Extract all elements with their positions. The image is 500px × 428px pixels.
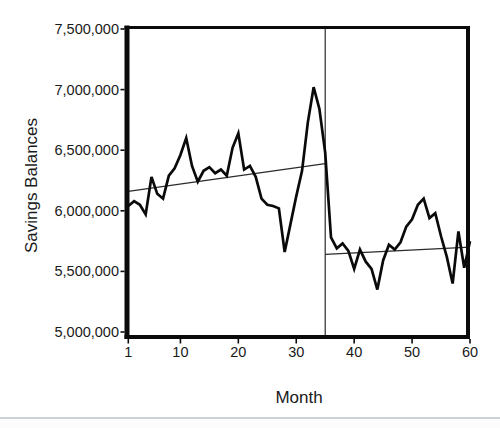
x-tick-label: 40 — [346, 344, 362, 360]
y-tick-label: 5,500,000 — [54, 263, 119, 279]
x-tick-label: 60 — [462, 344, 478, 360]
x-tick-label: 50 — [404, 344, 420, 360]
y-tick-label: 7,000,000 — [54, 82, 119, 98]
below-divider-strip — [0, 419, 500, 428]
x-axis-title: Month — [128, 388, 470, 408]
x-tick-label: 30 — [288, 344, 304, 360]
page: Savings Balances 5,000,0005,500,0006,000… — [0, 0, 500, 428]
y-tick-label: 6,000,000 — [54, 203, 119, 219]
y-tick-label: 5,000,000 — [54, 324, 119, 340]
x-tick-label: 10 — [172, 344, 188, 360]
x-tick-label: 20 — [230, 344, 246, 360]
series-line — [128, 87, 470, 289]
y-tick-label: 7,500,000 — [54, 21, 119, 37]
x-tick-label: 1 — [124, 344, 132, 360]
y-tick-label: 6,500,000 — [54, 142, 119, 158]
savings-balances-chart: 5,000,0005,500,0006,000,0006,500,0007,00… — [0, 0, 500, 428]
